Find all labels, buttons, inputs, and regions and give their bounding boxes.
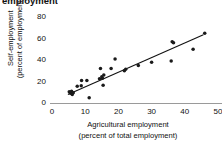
data-point <box>113 57 117 61</box>
data-point <box>72 91 76 95</box>
data-point <box>124 67 128 71</box>
plot-area <box>52 17 218 103</box>
y-axis-title: Self-employment (percent of employment) <box>6 0 24 84</box>
data-point <box>169 59 173 63</box>
y-tick-label-0: 0 <box>26 99 46 107</box>
y-tick-label-80: 80 <box>26 13 46 21</box>
x-axis-baseline <box>50 103 222 104</box>
y-axis-title-line2: (percent of employment) <box>15 0 24 84</box>
x-axis-title-line2: (percent of total employment) <box>34 131 222 142</box>
data-point <box>99 67 103 71</box>
data-point <box>79 84 83 88</box>
x-tick-label-30: 30 <box>142 108 162 116</box>
data-point <box>150 60 154 64</box>
data-point-group <box>68 31 207 99</box>
data-point <box>137 64 141 68</box>
scatter-plot-figure: employment Self-employment (percent of e… <box>0 0 222 145</box>
data-point <box>191 48 195 52</box>
data-point <box>101 77 105 81</box>
y-axis-title-line1: Self-employment <box>6 10 15 65</box>
data-point <box>101 84 105 88</box>
y-tick-label-60: 60 <box>26 35 46 43</box>
data-point <box>75 85 79 89</box>
data-point <box>109 67 113 71</box>
x-tick-label-20: 20 <box>108 108 128 116</box>
x-tick-label-50: 50 <box>208 108 222 116</box>
data-point <box>85 79 89 83</box>
data-point <box>87 96 91 100</box>
data-point <box>203 31 207 34</box>
data-point <box>102 73 106 77</box>
data-point <box>172 41 176 45</box>
y-tick-label-20: 20 <box>26 78 46 86</box>
x-tick-label-40: 40 <box>175 108 195 116</box>
x-axis-title-line1: Agricultural employment <box>87 120 168 129</box>
scatter-svg <box>52 17 218 103</box>
x-tick-label-10: 10 <box>75 108 95 116</box>
x-axis-title: Agricultural employment (percent of tota… <box>34 120 222 141</box>
regression-line <box>68 35 203 95</box>
y-tick-label-40: 40 <box>26 56 46 64</box>
data-point <box>80 79 84 83</box>
x-tick-label-0: 0 <box>42 108 62 116</box>
